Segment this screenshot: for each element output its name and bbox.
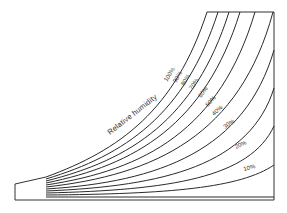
curve-40 bbox=[46, 50, 274, 189]
label-30: 30% bbox=[222, 118, 236, 130]
humidity-curves bbox=[46, 12, 274, 197]
curve-50 bbox=[46, 12, 273, 187]
label-10: 10% bbox=[243, 163, 257, 172]
relative-humidity-chart: Relative humidity 100% 90% 80% 70% 60% 5… bbox=[0, 0, 287, 213]
curve-10 bbox=[46, 165, 274, 195]
curve-100 bbox=[46, 12, 207, 177]
label-20: 20% bbox=[234, 139, 248, 150]
curve-labels: 100% 90% 80% 70% 60% 50% 40% 30% 20% 10% bbox=[163, 66, 257, 172]
label-70: 70% bbox=[188, 77, 200, 91]
curve-30 bbox=[46, 88, 274, 191]
label-60: 60% bbox=[197, 85, 210, 99]
label-40: 40% bbox=[211, 104, 224, 117]
